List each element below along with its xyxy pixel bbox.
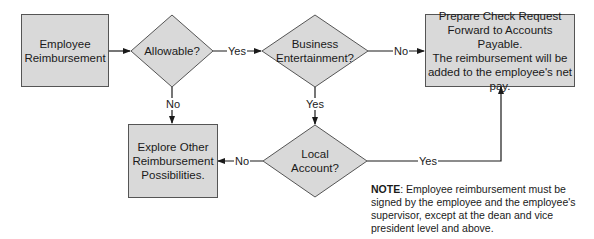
note-body: : Employee reimbursement must be signed … <box>371 183 576 234</box>
employee-reimbursement-box: EmployeeReimbursement <box>21 14 109 87</box>
node-text: Business <box>292 38 339 50</box>
local-account-label: LocalAccount? <box>263 125 367 197</box>
node-text: Local <box>301 148 329 160</box>
node-text: Reimbursement <box>24 52 105 64</box>
edge-label-business-no: No <box>393 45 409 57</box>
edge-label-local-yes: Yes <box>418 155 438 167</box>
node-text: Explore Other <box>138 141 209 153</box>
node-text: added to the employee's net <box>428 66 572 78</box>
node-text: Reimbursement <box>132 155 213 167</box>
node-text: Account? <box>291 162 339 174</box>
node-text: Prepare Check Request <box>439 10 562 22</box>
edge-label-local-no: No <box>234 155 250 167</box>
node-text: Forward to Accounts Payable. <box>448 24 553 50</box>
prepare-check-request-box: Prepare Check Request Forward to Account… <box>425 14 575 87</box>
allowable-label: Allowable? <box>131 15 213 87</box>
edge-label-allowable-yes: Yes <box>227 45 247 57</box>
node-text: Possibilities. <box>141 169 204 181</box>
edge-label-allowable-no: No <box>165 98 181 110</box>
node-text: Employee <box>39 38 90 50</box>
node-text: pay. <box>490 80 511 92</box>
edge-label-business-yes: Yes <box>305 98 325 110</box>
node-text: The reimbursement will be <box>433 52 568 64</box>
note-text: NOTE: Employee reimbursement must be sig… <box>371 183 593 235</box>
node-text: Allowable? <box>144 44 200 58</box>
business-entertainment-label: BusinessEntertainment? <box>262 15 368 87</box>
note-label: NOTE <box>371 183 400 195</box>
node-text: Entertainment? <box>276 52 354 64</box>
explore-other-box: Explore Other Reimbursement Possibilitie… <box>128 124 218 198</box>
